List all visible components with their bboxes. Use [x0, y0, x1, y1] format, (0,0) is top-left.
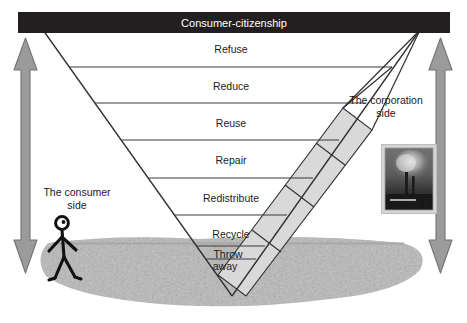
- factory-smokestack-photo: [382, 145, 437, 214]
- consumer-citizenship-banner: Consumer-citizenship: [18, 12, 450, 33]
- tier-label-reuse: Reuse: [216, 117, 247, 129]
- tier-label-repair: Repair: [216, 154, 247, 166]
- consumer-side-annotation: The consumer side: [43, 186, 111, 211]
- tier-label-redistribute: Redistribute: [203, 192, 259, 204]
- figure-canvas: Consumer-citizenship Refuse Reduce Reuse…: [0, 0, 467, 323]
- tier-label-reduce: Reduce: [213, 80, 249, 92]
- corporation-side-line1: The corporation: [349, 94, 423, 106]
- tier-label-recycle: Recycle: [212, 228, 250, 240]
- consumer-side-line2: side: [67, 199, 86, 211]
- tier-label-refuse: Refuse: [214, 43, 247, 55]
- corporation-side-line2: side: [376, 107, 395, 119]
- tier-label-throw-away-line1: Throw: [213, 248, 243, 260]
- tier-label-throw-away-line2: away: [213, 260, 238, 272]
- consumer-side-line1: The consumer: [43, 186, 111, 198]
- left-double-arrow: [14, 38, 37, 273]
- banner-label: Consumer-citizenship: [181, 17, 287, 29]
- diagram-svg: Consumer-citizenship Refuse Reduce Reuse…: [0, 0, 467, 323]
